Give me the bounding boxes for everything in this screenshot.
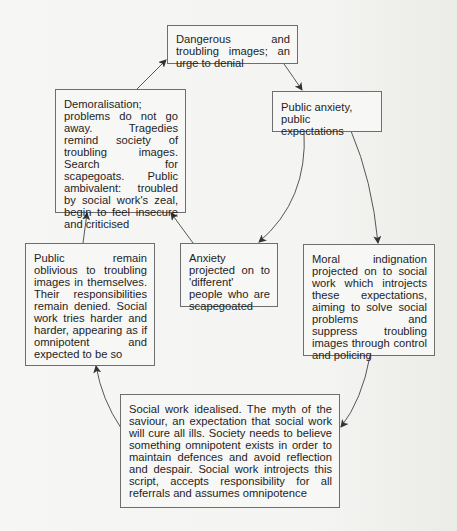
node-moral-indignation: Moral indignation projected on to social…: [303, 244, 435, 356]
node-demoralisation: Demoralisation; problems do not go away.…: [55, 89, 186, 213]
arrow-anxiety-to-moral: [351, 131, 378, 243]
node-public-anxiety: Public anxiety, public expectations: [272, 91, 382, 132]
arrow-anxiety-to-projected: [259, 131, 304, 242]
arrow-moral-to-idealised: [341, 356, 370, 427]
arrow-demoralisation-to-dangerous: [137, 60, 166, 89]
arrow-idealised-to-oblivious: [96, 366, 121, 428]
node-social-work-idealised: Social work idealised. The myth of the s…: [120, 394, 340, 508]
arrow-dangerous-to-anxiety: [284, 64, 302, 90]
node-public-oblivious: Public remain oblivious to troubling ima…: [25, 243, 155, 366]
node-dangerous-images: Dangerous and troubling images; an urge …: [167, 25, 298, 64]
node-anxiety-projected: Anxiety projected on to 'different' peop…: [180, 243, 278, 307]
